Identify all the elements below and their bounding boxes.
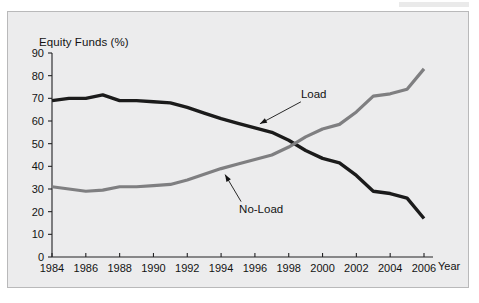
- x-tick-label: 1992: [175, 262, 199, 274]
- series-line-no-load: [52, 69, 424, 191]
- y-tick-label: 40: [32, 160, 44, 172]
- chart-plot-area: 0102030405060708090 19841986198819901992…: [8, 12, 468, 287]
- x-tick-label: 2000: [310, 262, 334, 274]
- y-tick-label: 30: [32, 183, 44, 195]
- x-tick-label: 1996: [243, 262, 267, 274]
- x-tick-label: 2002: [344, 262, 368, 274]
- x-axis-ticks: 1984198619881990199219941996199820002002…: [40, 253, 436, 274]
- x-tick-label: 2006: [412, 262, 436, 274]
- x-tick-label: 1990: [141, 262, 165, 274]
- annotation-arrow-icon: [225, 175, 231, 182]
- scan-smudge: [399, 2, 469, 7]
- x-tick-label: 1988: [107, 262, 131, 274]
- annotation-label: Load: [301, 88, 327, 100]
- annotation-label: No-Load: [239, 203, 283, 215]
- screenshot-page: Equity Funds (%) Year 010203040506070809…: [0, 0, 479, 303]
- y-axis-ticks: 0102030405060708090: [32, 47, 52, 263]
- y-tick-label: 80: [32, 70, 44, 82]
- x-tick-label: 1994: [209, 262, 233, 274]
- x-tick-label: 2004: [378, 262, 402, 274]
- y-tick-label: 70: [32, 92, 44, 104]
- y-tick-label: 90: [32, 47, 44, 59]
- y-tick-label: 60: [32, 115, 44, 127]
- y-tick-label: 10: [32, 228, 44, 240]
- x-tick-label: 1998: [276, 262, 300, 274]
- y-tick-label: 50: [32, 138, 44, 150]
- line-chart-svg: 0102030405060708090 19841986198819901992…: [8, 12, 468, 287]
- annotations-group: LoadNo-Load: [225, 88, 326, 215]
- annotation-arrow-icon: [260, 118, 267, 124]
- chart-figure: Equity Funds (%) Year 010203040506070809…: [7, 11, 469, 288]
- y-tick-label: 20: [32, 206, 44, 218]
- series-line-load: [52, 95, 424, 219]
- x-tick-label: 1984: [40, 262, 64, 274]
- x-tick-label: 1986: [74, 262, 98, 274]
